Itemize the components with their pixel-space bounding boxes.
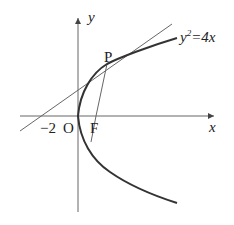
equation-label: y2=4x (178, 28, 216, 45)
origin-label: O (63, 120, 74, 136)
point-p-label: P (104, 49, 112, 65)
equation-rest: =4x (191, 29, 216, 45)
parabola-diagram: y x −2 O F P y2=4x (0, 0, 234, 225)
y-axis-label: y (86, 9, 95, 25)
intercept-label: −2 (40, 120, 56, 136)
focus-label: F (90, 120, 98, 136)
diagram-canvas: y x −2 O F P y2=4x (0, 0, 234, 225)
equation-base: y (178, 29, 187, 45)
x-axis-label: x (208, 119, 216, 135)
